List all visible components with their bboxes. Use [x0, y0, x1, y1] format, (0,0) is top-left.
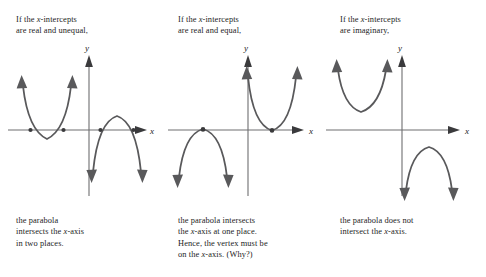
panel-2-left-parabola-opens-down [172, 127, 233, 188]
panel-2-bottom-caption: the parabola intersects the x-axis at on… [178, 215, 318, 260]
panel-1-y-axis-label: y [84, 44, 89, 53]
panel-2-bottom-caption-line1: the parabola intersects [178, 216, 255, 225]
panel-3-top-caption: If the x-intercepts are imaginary, [340, 14, 480, 37]
panel-2-bottom-caption-line2-pre: the [178, 227, 191, 236]
panel-2-right-parabola-opens-up [242, 66, 303, 133]
panel-3-bottom-caption-line1: the parabola does not [340, 216, 414, 225]
panel-3-x-axis-label: x [464, 126, 469, 136]
panel-3-plot: x y [324, 44, 486, 204]
panel-real-and-equal: If the x-intercepts are real and equal, … [162, 0, 324, 277]
panel-3-bottom-caption-line2-pre: intersect the [340, 227, 384, 236]
panel-3-lower-parabola-opens-down [399, 147, 458, 201]
panel-2-bottom-caption-line4-pre: on the [178, 250, 202, 259]
panel-2-y-axis-label: y [243, 44, 248, 53]
panel-2-plot: x y [162, 44, 324, 204]
panel-1-right-parabola-opens-down [86, 116, 147, 183]
panel-3-top-caption-line2: are imaginary, [340, 26, 389, 35]
panel-1-bottom-caption-line1: the parabola [16, 216, 58, 225]
panel-1-top-caption: If the x-intercepts are real and unequal… [16, 14, 156, 37]
quadratic-discriminant-figure: If the x-intercepts are real and unequal… [0, 0, 486, 277]
panel-3-upper-parabola-opens-up [332, 59, 393, 112]
panel-1-bottom-caption-line2-pre: intersects the [16, 227, 64, 236]
panel-1-x-axis-label: x [149, 126, 154, 136]
panel-3-bottom-caption: the parabola does not intersect the x-ax… [340, 215, 480, 238]
panel-2-top-caption-line1-post: -intercepts [203, 15, 239, 24]
panel-3-top-caption-line1-post: -intercepts [365, 15, 401, 24]
panel-3-top-caption-line1-pre: If the [340, 15, 361, 24]
panel-3-y-axis-label: y [397, 44, 402, 53]
panel-3-x-axis [326, 126, 460, 134]
panel-1-top-caption-line2: are real and unequal, [16, 26, 88, 35]
panel-1-bottom-caption-line3: in two places. [16, 239, 64, 248]
panel-2-bottom-caption-line2-post: -axis at one place. [195, 227, 257, 236]
panel-1-top-caption-line1-post: -intercepts [41, 15, 77, 24]
panel-1-left-parabola-opens-up [17, 75, 78, 139]
panel-1-bottom-caption: the parabola intersects the x-axis in tw… [16, 215, 156, 249]
panel-2-top-caption-line2: are real and equal, [178, 26, 241, 35]
panel-3-bottom-caption-line2-post: -axis. [388, 227, 407, 236]
panel-1-top-caption-line1-pre: If the [16, 15, 37, 24]
panel-imaginary: If the x-intercepts are imaginary, x y [324, 0, 486, 277]
panel-2-top-caption: If the x-intercepts are real and equal, [178, 14, 318, 37]
panel-2-bottom-caption-line4-post: -axis. (Why?) [205, 250, 252, 259]
panel-2-x-axis-label: x [308, 126, 313, 136]
panel-2-top-caption-line1-pre: If the [178, 15, 199, 24]
panel-1-bottom-caption-line2-post: -axis [67, 227, 84, 236]
panel-2-bottom-caption-line3: Hence, the vertex must be [178, 239, 268, 248]
panel-2-x-axis [168, 126, 304, 134]
panel-real-and-unequal: If the x-intercepts are real and unequal… [0, 0, 162, 277]
panel-1-plot: x y [0, 44, 162, 204]
panel-3-y-axis [398, 55, 406, 196]
